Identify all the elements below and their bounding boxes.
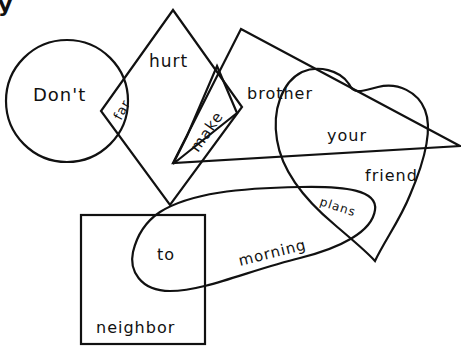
word-diagram: y Don't far hurt make brother your frien… xyxy=(0,0,461,349)
word-dont: Don't xyxy=(33,84,86,105)
word-far: far xyxy=(110,97,133,122)
word-neighbor: neighbor xyxy=(96,318,175,337)
word-your: your xyxy=(327,126,367,145)
word-make: make xyxy=(187,108,228,155)
word-to: to xyxy=(157,245,175,264)
word-hurt: hurt xyxy=(149,51,188,71)
word-brother: brother xyxy=(247,84,313,103)
corner-fragment: y xyxy=(0,0,12,17)
word-friend: friend xyxy=(365,166,418,185)
